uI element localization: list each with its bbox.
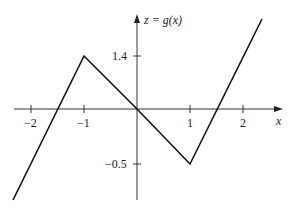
x-tick-label-m2: −2 [24,116,37,130]
function-label: z = g(x) [143,13,182,27]
x-tick-label-m1: −1 [77,116,90,130]
chart: −2 −1 1 2 x 1.4 −0.5 z = g(x) [0,0,292,212]
y-axis-arrow-icon [134,14,140,23]
x-tick-label-2: 2 [240,116,246,130]
y-tick-label-1-4: 1.4 [112,49,127,63]
x-axis-label: x [275,114,282,128]
y-tick-label-m0-5: −0.5 [105,157,127,171]
x-tick-label-1: 1 [187,116,193,130]
x-axis-arrow-icon [274,106,283,112]
